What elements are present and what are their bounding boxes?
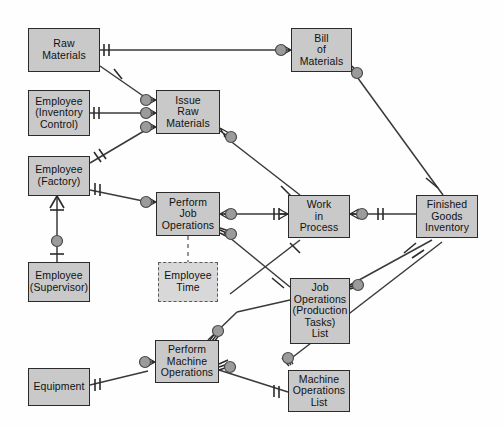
entity-label-machine-operations-list: Machine Operations List [291, 374, 347, 409]
connector-dot [141, 95, 152, 106]
entity-finished-goods-inventory[interactable]: Finished Goods Inventory [416, 195, 478, 238]
connector-dot [213, 326, 224, 337]
edge-issuerawmaterials-workinprocess [224, 136, 300, 195]
entity-employee-inventory-control[interactable]: Employee (Inventory Control) [28, 90, 90, 136]
connector-dot [52, 236, 63, 247]
edge-billofmaterials-finishedgoods [352, 70, 443, 195]
connector-dot [353, 280, 364, 291]
connector-dot [352, 68, 363, 79]
connector-dot [141, 108, 152, 119]
edge-performmachineops-joboperationslist-b [237, 300, 290, 312]
entity-job-operations-list[interactable]: Job Operations (Production Tasks) List [290, 278, 350, 344]
connector-dot [141, 197, 152, 208]
connector-dot [141, 122, 152, 133]
entity-issue-raw-materials[interactable]: Issue Raw Materials [156, 90, 220, 134]
entity-label-employee-factory: Employee (Factory) [33, 164, 85, 187]
card-tick [114, 69, 122, 79]
edge-equipment-performmachineops [90, 371, 148, 385]
edge-performmachineops-machineopslist [219, 370, 288, 392]
entity-raw-materials[interactable]: Raw Materials [28, 28, 100, 72]
connector-dot [226, 209, 237, 220]
connector-dot [226, 132, 237, 143]
connector-dot [276, 45, 287, 56]
entity-label-raw-materials: Raw Materials [40, 38, 88, 61]
entity-label-employee-time: Employee Time [162, 270, 214, 293]
entity-perform-machine-operations[interactable]: Perform Machine Operations [155, 340, 219, 383]
entity-employee-factory[interactable]: Employee (Factory) [28, 156, 90, 196]
crowsfoot [50, 196, 57, 208]
edge-joboperationslist-finishedgoods [350, 240, 432, 285]
entity-label-work-in-process: Work in Process [298, 199, 341, 234]
entity-equipment[interactable]: Equipment [28, 368, 90, 406]
entity-employee-supervisor[interactable]: Employee (Supervisor) [28, 262, 90, 302]
edge-empfactory-performjobops [90, 190, 148, 202]
entity-perform-job-operations[interactable]: Perform Job Operations [156, 192, 220, 236]
entity-label-job-operations-list: Job Operations (Production Tasks) List [291, 282, 350, 340]
connector-dot [283, 353, 294, 364]
crowsfoot [279, 209, 288, 219]
entity-work-in-process[interactable]: Work in Process [288, 195, 350, 238]
entity-employee-time[interactable]: Employee Time [158, 262, 218, 302]
entity-label-issue-raw-materials: Issue Raw Materials [164, 95, 212, 130]
entity-label-finished-goods-inventory: Finished Goods Inventory [423, 199, 471, 234]
entity-label-perform-machine-operations: Perform Machine Operations [159, 344, 215, 379]
connector-dot [226, 229, 237, 240]
entity-label-equipment: Equipment [31, 381, 86, 393]
entity-label-employee-inventory-control: Employee (Inventory Control) [33, 96, 85, 131]
entity-label-employee-supervisor: Employee (Supervisor) [28, 270, 90, 293]
connector-dot [357, 209, 368, 220]
er-diagram-canvas: Raw MaterialsEmployee (Inventory Control… [0, 0, 504, 428]
connector-dot [140, 357, 151, 368]
card-tick [272, 278, 284, 288]
edge-performjobops-joboperationslist [224, 233, 290, 287]
crowsfoot [57, 196, 64, 208]
entity-machine-operations-list[interactable]: Machine Operations List [288, 370, 350, 412]
entity-bill-of-materials[interactable]: Bill of Materials [291, 28, 352, 72]
entity-label-perform-job-operations: Perform Job Operations [160, 197, 216, 232]
edge-rawmaterials-issuerawmaterials [100, 66, 149, 100]
connector-dot [225, 362, 236, 373]
entity-label-bill-of-materials: Bill of Materials [298, 33, 346, 68]
